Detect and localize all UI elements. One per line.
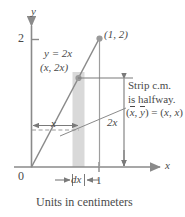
annotation-line-2: is halfway.	[128, 94, 176, 105]
x-tick-label-1: 1	[96, 175, 102, 186]
strip-point-label: (x, 2x)	[40, 62, 68, 73]
endpoint-label: (1, 2)	[104, 29, 128, 40]
x-axis-label: x	[165, 160, 170, 171]
formula-equals: ) = (	[145, 106, 164, 118]
origin-label: 0	[18, 170, 24, 182]
vertical-dimension-label: 2x	[107, 117, 117, 128]
annotation-line-1: Strip c.m.	[128, 80, 171, 91]
y-axis-label: y	[31, 6, 36, 17]
figure-caption: Units in centimeters	[36, 196, 133, 208]
point-marker-1-2	[96, 35, 102, 41]
formula-x-bar: x	[130, 107, 135, 118]
horizontal-dimension-label: x	[51, 118, 56, 129]
annotation-formula: (x, y) = (x, x)	[126, 107, 183, 118]
figure-container: y x 0 2 1 y = 2x (1, 2) (x, 2x) x 2x dx …	[0, 0, 185, 217]
dx-label: dx	[71, 174, 81, 185]
formula-close-paren: )	[179, 106, 183, 118]
formula-y-bar: y	[140, 107, 145, 118]
equation-label: y = 2x	[44, 48, 72, 59]
y-tick-label-2: 2	[18, 32, 24, 44]
